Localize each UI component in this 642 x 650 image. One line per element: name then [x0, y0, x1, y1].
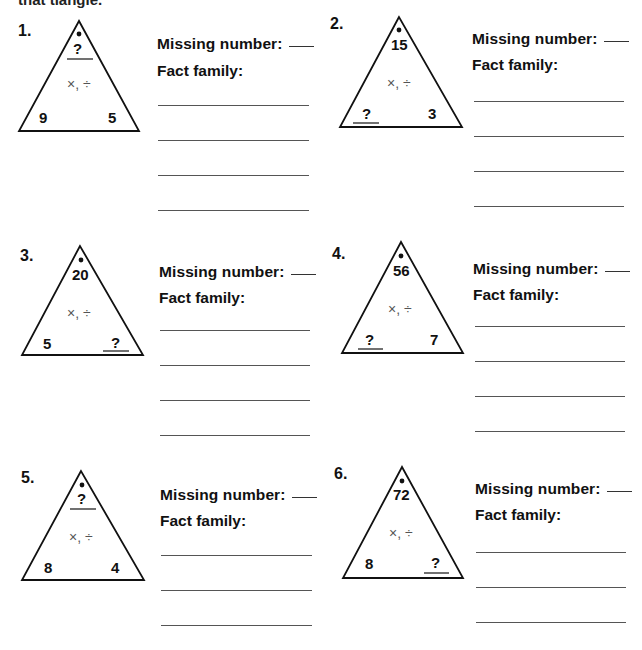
answer-line[interactable] — [475, 361, 625, 362]
answer-line[interactable] — [476, 622, 626, 623]
fact-family-label: Fact family: — [473, 286, 559, 304]
fact-family-label: Fact family: — [472, 56, 558, 74]
triangle-top-value: 72 — [393, 486, 410, 503]
triangle-bottom-left-value: ? — [365, 331, 374, 348]
triangle-bottom-left-value: ? — [362, 105, 371, 122]
triangle-bottom-right-value: 3 — [428, 105, 436, 122]
problem-1: 1. ? ×, ÷ 9 5 Missing number: Fact famil… — [0, 0, 320, 225]
problem-6: 6. 72 ×, ÷ 8 ? Missing number: Fact fami… — [320, 450, 640, 650]
answer-line[interactable] — [160, 435, 310, 436]
missing-number-label: Missing number: — [472, 30, 629, 48]
triangle-bottom-left-value: 5 — [43, 335, 51, 352]
missing-number-blank[interactable] — [605, 271, 630, 272]
answer-line[interactable] — [475, 431, 625, 432]
triangle-top-value: 20 — [72, 266, 89, 283]
missing-number-blank[interactable] — [604, 41, 629, 42]
triangle-bottom-left-value: 8 — [365, 555, 373, 572]
triangle-top-value: ? — [77, 490, 86, 507]
triangle-top-value: 15 — [391, 36, 408, 53]
missing-number-label: Missing number: — [160, 486, 317, 504]
operations-symbol: ×, ÷ — [67, 76, 91, 92]
answer-line[interactable] — [475, 326, 625, 327]
operations-symbol: ×, ÷ — [387, 75, 411, 91]
missing-number-blank[interactable] — [289, 46, 314, 47]
answer-line[interactable] — [476, 587, 626, 588]
triangle-bottom-right-value: ? — [111, 334, 120, 351]
problem-5: 5. ? ×, ÷ 8 4 Missing number: Fact famil… — [0, 450, 320, 650]
triangle-bottom-left-value: 9 — [39, 109, 47, 126]
problem-2: 2. 15 ×, ÷ ? 3 Missing number: Fact fami… — [320, 0, 640, 225]
answer-line[interactable] — [160, 365, 310, 366]
triangle-top-value: ? — [73, 40, 82, 57]
missing-number-label: Missing number: — [157, 35, 314, 53]
fact-family-label: Fact family: — [475, 506, 561, 524]
answer-line[interactable] — [158, 105, 309, 106]
problem-3: 3. 20 ×, ÷ 5 ? Missing number: Fact fami… — [0, 225, 320, 450]
fact-family-label: Fact family: — [159, 289, 245, 307]
answer-line[interactable] — [160, 330, 310, 331]
missing-number-label: Missing number: — [475, 480, 632, 498]
problem-4: 4. 56 ×, ÷ ? 7 Missing number: Fact fami… — [320, 225, 640, 450]
answer-line[interactable] — [474, 101, 624, 102]
answer-line[interactable] — [476, 552, 626, 553]
triangle-bottom-right-value: 7 — [430, 331, 438, 348]
answer-line[interactable] — [474, 206, 624, 207]
answer-line[interactable] — [474, 136, 624, 137]
answer-line[interactable] — [158, 175, 309, 176]
operations-symbol: ×, ÷ — [389, 525, 413, 541]
triangle-bottom-right-value: 4 — [111, 559, 119, 576]
answer-line[interactable] — [475, 396, 625, 397]
operations-symbol: ×, ÷ — [67, 305, 91, 321]
answer-line[interactable] — [161, 625, 312, 626]
answer-line[interactable] — [161, 590, 312, 591]
missing-number-blank[interactable] — [607, 491, 632, 492]
answer-line[interactable] — [158, 140, 309, 141]
triangle-bottom-right-value: ? — [431, 554, 440, 571]
triangle-bottom-right-value: 5 — [108, 109, 116, 126]
answer-line[interactable] — [158, 210, 309, 211]
fact-triangle-icon — [0, 450, 320, 650]
missing-number-blank[interactable] — [291, 274, 316, 275]
fact-triangle-icon — [0, 0, 320, 225]
missing-number-blank[interactable] — [292, 497, 317, 498]
triangle-top-value: 56 — [393, 262, 410, 279]
missing-number-label: Missing number: — [159, 263, 316, 281]
operations-symbol: ×, ÷ — [69, 529, 93, 545]
operations-symbol: ×, ÷ — [388, 301, 412, 317]
answer-line[interactable] — [160, 400, 310, 401]
answer-line[interactable] — [161, 555, 312, 556]
missing-number-label: Missing number: — [473, 260, 630, 278]
fact-family-label: Fact family: — [160, 512, 246, 530]
answer-line[interactable] — [474, 171, 624, 172]
triangle-bottom-left-value: 8 — [44, 559, 52, 576]
fact-family-label: Fact family: — [157, 62, 243, 80]
